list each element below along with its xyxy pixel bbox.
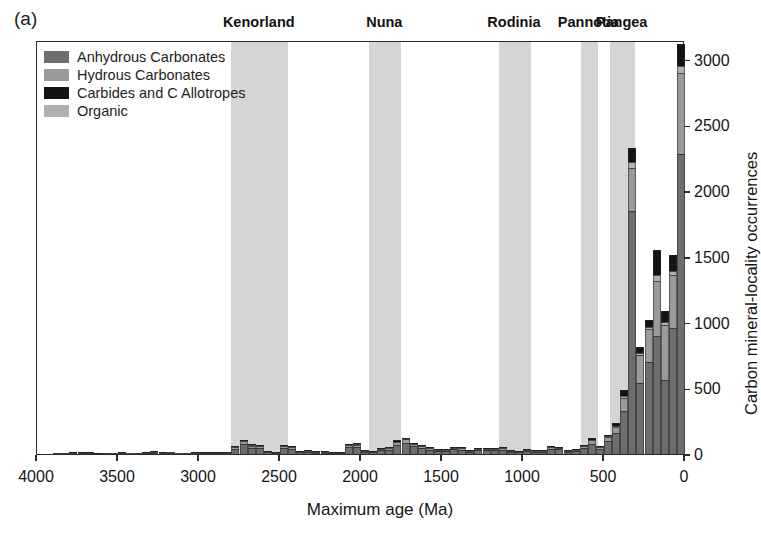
bar-segment	[126, 453, 134, 454]
bar-segment	[499, 450, 507, 454]
bar-segment	[572, 451, 580, 454]
x-tick	[683, 455, 684, 461]
bar-bin	[118, 453, 126, 454]
bar-segment	[653, 336, 661, 454]
bar-bin	[474, 448, 482, 454]
bar-bin	[628, 148, 636, 454]
bar-segment	[142, 452, 150, 453]
bar-bin	[304, 451, 312, 454]
bar-segment	[677, 73, 685, 154]
bar-segment	[134, 453, 142, 454]
bar-segment	[183, 453, 191, 454]
bar-segment	[393, 442, 401, 445]
bar-segment	[555, 447, 563, 448]
y-tick	[684, 389, 690, 390]
bar-segment	[547, 447, 555, 449]
bar-segment	[393, 440, 401, 441]
bar-bin	[159, 453, 167, 454]
bar-segment	[628, 211, 636, 454]
bar-bin	[499, 448, 507, 454]
bar-segment	[426, 447, 434, 448]
bar-segment	[345, 445, 353, 447]
x-tick	[197, 455, 198, 461]
y-tick-label: 1000	[694, 315, 730, 333]
bar-segment	[223, 452, 231, 453]
bar-segment	[280, 448, 288, 454]
bar-segment	[636, 355, 644, 383]
bar-segment	[661, 322, 669, 325]
bar-segment	[248, 446, 256, 448]
bar-segment	[410, 443, 418, 444]
bar-segment	[474, 450, 482, 454]
bar-bin	[393, 440, 401, 454]
bar-segment	[669, 328, 677, 454]
bar-bin	[126, 453, 134, 454]
bar-segment	[288, 449, 296, 454]
bar-segment	[393, 445, 401, 454]
x-axis-title: Maximum age (Ma)	[0, 500, 760, 520]
bar-segment	[240, 441, 248, 444]
bar-segment	[450, 449, 458, 454]
bar-segment	[661, 311, 669, 322]
bar-bin	[86, 453, 94, 454]
bar-segment	[369, 452, 377, 454]
bar-segment	[240, 444, 248, 454]
bar-segment	[418, 446, 426, 448]
bar-bin	[653, 250, 661, 454]
bar-bin	[580, 445, 588, 454]
bar-segment	[474, 449, 482, 450]
bar-segment	[450, 447, 458, 448]
bar-bin	[321, 452, 329, 454]
supercontinent-label-nuna: Nuna	[366, 14, 402, 30]
x-tick	[521, 455, 522, 461]
supercontinent-label-rodinia: Rodinia	[487, 14, 540, 30]
x-tick-label: 3000	[180, 468, 216, 486]
legend-swatch-icon	[44, 69, 69, 81]
y-tick	[684, 60, 690, 61]
bar-bin	[361, 451, 369, 454]
bar-bin	[572, 450, 580, 454]
bar-bin	[620, 390, 628, 454]
bar-segment	[604, 435, 612, 437]
legend-item: Carbides and C Allotropes	[44, 84, 245, 101]
bar-segment	[588, 440, 596, 443]
bar-segment	[669, 275, 677, 328]
bar-segment	[410, 444, 418, 446]
x-tick	[35, 455, 36, 461]
panel-label: (a)	[14, 8, 37, 30]
bar-segment	[280, 446, 288, 448]
bar-segment	[199, 452, 207, 453]
bar-segment	[385, 447, 393, 448]
bar-segment	[69, 452, 77, 453]
bar-segment	[580, 448, 588, 454]
bar-segment	[410, 446, 418, 454]
bar-segment	[78, 452, 86, 453]
bar-segment	[353, 443, 361, 444]
bar-segment	[191, 452, 199, 453]
bar-bin	[377, 448, 385, 454]
legend-item: Organic	[44, 102, 245, 119]
supercontinent-label-kenorland: Kenorland	[223, 14, 295, 30]
bar-bin	[547, 447, 555, 454]
bar-segment	[612, 427, 620, 433]
bar-segment	[264, 452, 272, 454]
bar-segment	[596, 447, 604, 449]
bar-segment	[248, 448, 256, 454]
bar-segment	[523, 451, 531, 454]
bar-bin	[69, 453, 77, 454]
bar-segment	[636, 347, 644, 354]
bar-segment	[547, 446, 555, 447]
bar-segment	[434, 449, 442, 450]
bar-segment	[661, 325, 669, 380]
bar-segment	[167, 452, 175, 453]
bar-bin	[539, 451, 547, 454]
bar-bin	[175, 453, 183, 454]
bar-segment	[256, 446, 264, 448]
bar-segment	[620, 398, 628, 411]
bar-segment	[207, 452, 215, 453]
bar-segment	[150, 453, 158, 454]
bar-segment	[531, 450, 539, 451]
bar-segment	[426, 450, 434, 454]
bar-segment	[564, 450, 572, 451]
bar-segment	[159, 452, 167, 453]
